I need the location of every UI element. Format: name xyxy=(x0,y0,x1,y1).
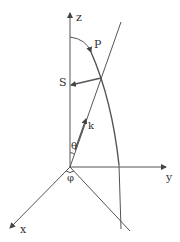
x-axis xyxy=(10,167,70,228)
angle-phi-label: φ xyxy=(67,173,74,183)
vector-s xyxy=(71,78,101,85)
y-axis-label: y xyxy=(166,172,172,183)
figure: z y x P S k θ φ xyxy=(0,0,180,242)
vector-k-label: k xyxy=(88,121,94,131)
angle-theta-label: θ xyxy=(71,141,77,151)
z-axis-label: z xyxy=(76,12,82,23)
point-p-label: P xyxy=(94,39,101,50)
point-s-label: S xyxy=(59,77,67,88)
x-axis-label: x xyxy=(20,224,26,235)
meridian-arc xyxy=(70,37,91,52)
theta-arc xyxy=(70,153,74,154)
